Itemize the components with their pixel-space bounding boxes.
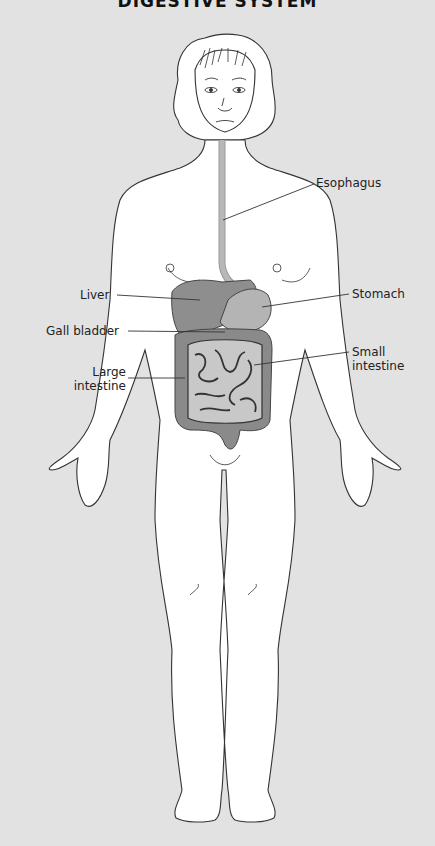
label-liver: Liver xyxy=(80,288,109,302)
label-small-intestine-line1: Small xyxy=(352,345,404,359)
label-stomach: Stomach xyxy=(352,287,405,301)
human-figure-diagram xyxy=(0,0,435,846)
label-small-intestine: Small intestine xyxy=(352,345,404,373)
label-large-intestine-line1: Large xyxy=(60,365,126,379)
label-gall-bladder: Gall bladder xyxy=(46,324,119,338)
label-large-intestine-line2: intestine xyxy=(60,379,126,393)
label-large-intestine: Large intestine xyxy=(60,365,126,393)
label-small-intestine-line2: intestine xyxy=(352,359,404,373)
label-esophagus: Esophagus xyxy=(316,176,381,190)
